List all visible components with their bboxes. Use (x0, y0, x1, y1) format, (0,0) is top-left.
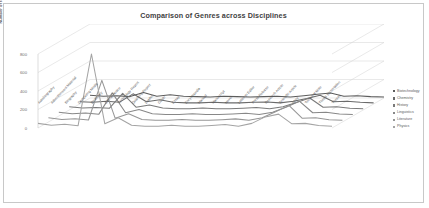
y-axis-tick-label: 600 (9, 70, 27, 75)
legend-item-label: Chemistry (397, 97, 413, 101)
legend-swatch-icon (393, 112, 395, 114)
chart-legend: BiotechnologyChemistryHistoryLinguistics… (393, 88, 429, 131)
y-axis-tick-label: 800 (9, 52, 27, 57)
y-axis-tick-label: 200 (9, 107, 27, 112)
legend-item-label: History (397, 104, 408, 108)
legend-item-label: Physics (397, 125, 409, 129)
legend-item-label: Literature (397, 118, 412, 122)
chart-title: Comparison of Genres across Disciplines (4, 11, 423, 20)
legend-swatch-icon (393, 90, 395, 92)
legend-swatch-icon (393, 119, 395, 121)
chart-container: Comparison of Genres across Disciplines … (3, 3, 424, 203)
legend-item[interactable]: Physics (393, 124, 429, 131)
legend-swatch-icon (393, 126, 395, 128)
legend-item[interactable]: Chemistry (393, 95, 429, 102)
legend-swatch-icon (393, 104, 395, 106)
y-axis-tick-label: 400 (9, 89, 27, 94)
legend-item-label: Biotechnology (397, 90, 420, 94)
x-axis-tick-labels: AutobiographyAdvertisement MaterialBiogr… (32, 100, 422, 205)
legend-item[interactable]: Literature (393, 117, 429, 124)
legend-item-label: Linguistics (397, 111, 414, 115)
legend-item[interactable]: History (393, 102, 429, 109)
y-axis-title: Number of texts (0, 0, 3, 48)
legend-item[interactable]: Biotechnology (393, 88, 429, 95)
y-axis-tick-label: 0 (9, 126, 27, 131)
legend-swatch-icon (393, 97, 395, 99)
legend-item[interactable]: Linguistics (393, 110, 429, 117)
